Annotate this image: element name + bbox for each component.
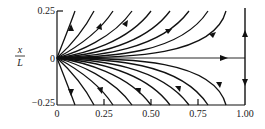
x-tick-labels: 0 0.25 0.50 0.75 1.00	[55, 108, 254, 119]
arrow-icon	[216, 82, 222, 88]
x-tick-0: 0	[55, 108, 60, 119]
y-tick-top: 0.25	[38, 5, 56, 16]
trajectories-upper	[57, 11, 226, 58]
arrow-right-icon	[220, 55, 228, 61]
y-label-denominator: L	[16, 57, 23, 68]
arrow-icon	[96, 23, 102, 30]
trajectory	[57, 11, 113, 58]
phase-portrait-diagram: 0.25 0 −0.25 0 0.25 0.50 0.75 1.00 x L	[0, 0, 265, 129]
trajectory	[57, 11, 75, 58]
x-tick-0.25: 0.25	[95, 108, 113, 119]
x-tick-1.00: 1.00	[236, 108, 254, 119]
y-tick-zero: 0	[50, 53, 55, 64]
arrow-down-icon	[242, 79, 248, 86]
trajectory	[57, 11, 170, 58]
arrow-icon	[135, 88, 141, 94]
arrow-icon	[68, 89, 74, 96]
x-tick-0.75: 0.75	[189, 108, 207, 119]
trajectory	[57, 58, 75, 105]
arrow-up-icon	[242, 30, 248, 37]
y-tick-labels: 0.25 0 −0.25	[32, 5, 55, 108]
y-tick-bottom: −0.25	[32, 97, 55, 108]
trajectory	[57, 58, 170, 105]
trajectory	[57, 58, 113, 105]
arrow-icon	[97, 87, 103, 94]
trajectories-lower	[57, 58, 226, 105]
y-label-numerator: x	[17, 44, 23, 55]
y-axis-label: x L	[15, 44, 25, 68]
x-tick-0.50: 0.50	[142, 108, 160, 119]
